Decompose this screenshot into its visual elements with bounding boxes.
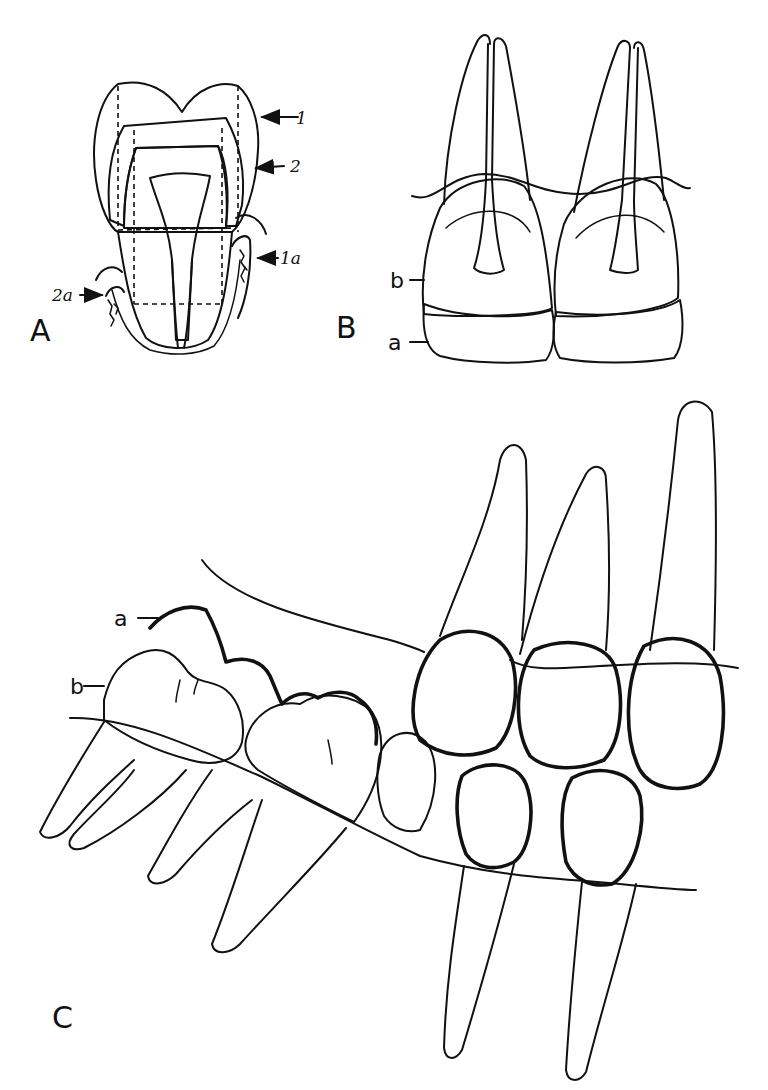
annotation-label-b-panel-c: b [70,674,84,699]
panel-c: a b C [40,402,738,1080]
panel-c-upper-root-2 [520,467,609,654]
annotation-label-2: 2 [289,156,301,176]
annotation-label-1: 1 [296,108,307,128]
panel-label-c: C [52,1000,73,1035]
annotation-2-arrow [256,166,284,168]
panel-c-upper-gingival-line-right [510,660,738,668]
annotation-label-2a: 2a [51,285,73,305]
panel-c-upper-crown-2 [518,643,620,768]
panel-a-pulp-chamber-outline [124,146,227,228]
annotation-label-a-panel-c: a [114,606,127,631]
panel-c-lower-crown-1 [457,765,531,868]
panel-c-upper-crown-3 [628,639,723,789]
panel-c-upper-root-3 [650,402,716,650]
panel-c-cusp-detail-2 [328,740,332,764]
panel-c-upper-gingival-line [202,560,424,652]
annotation-label-b-panel-b: b [390,268,404,293]
panel-b: b a B [336,35,690,363]
panel-c-upper-molar-crown [104,650,243,763]
panel-label-a: A [30,313,51,348]
panel-b-left-crown [423,179,552,316]
panel-c-molar-root-3 [148,770,252,883]
panel-c-cusp-detail-1 [176,680,198,702]
panel-a: 1 2 1a 2a A [30,82,307,354]
panel-b-gingival-line [412,174,690,197]
panel-a-bone-left [106,287,124,296]
panel-b-band-left [446,211,530,232]
panel-b-right-pulp [610,48,638,273]
annotation-label-1a: 1a [280,248,301,268]
panel-c-upper-root-1 [440,445,527,640]
panel-b-right-crown [554,178,678,316]
panel-a-gingiva-left [96,267,122,280]
dental-figure: 1 2 1a 2a A b a B [0,0,768,1090]
panel-a-trabecular-bone-right [240,250,247,282]
annotation-label-a-panel-b: a [388,330,401,355]
panel-b-right-incisal [553,300,682,363]
panel-a-gingiva-right [236,215,266,234]
panel-c-lower-root-2 [566,882,636,1080]
panel-label-b: B [336,310,357,345]
panel-c-lower-gingival-line [70,718,696,890]
panel-c-lower-crown-2 [562,771,642,885]
panel-c-upper-crown-1 [413,631,515,755]
panel-c-molar-root-4 [212,800,346,952]
panel-c-lower-root-1 [444,864,514,1058]
panel-b-left-pulp [474,44,504,274]
panel-c-upper-cuspid-crown [377,733,435,831]
panel-a-pulp [150,173,210,340]
